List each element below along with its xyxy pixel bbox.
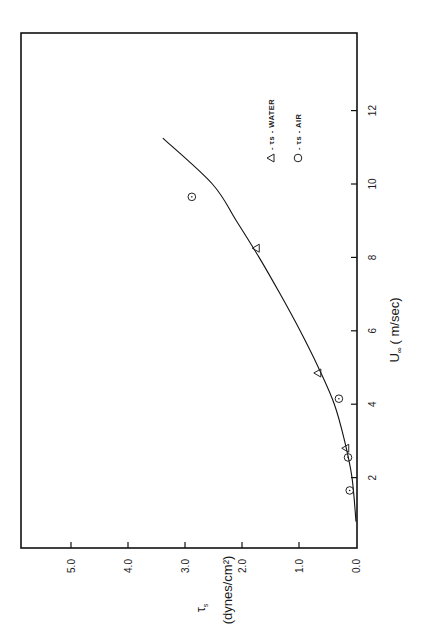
data-markers xyxy=(188,193,353,494)
x-tick-label: 4 xyxy=(367,401,378,407)
air-data-point-center xyxy=(191,196,193,198)
air-data-point-center xyxy=(347,457,349,459)
y-tick-label: 3.0 xyxy=(180,559,191,573)
x-tick-label: 8 xyxy=(367,254,378,260)
svg-text:- τs - WATER: - τs - WATER xyxy=(267,99,276,150)
x-tick-label: 6 xyxy=(367,328,378,334)
x-axis-title: U∞( m/sec) xyxy=(387,297,404,362)
legend-item-water: - τs - WATER xyxy=(267,99,276,162)
fitted-curve xyxy=(163,138,356,522)
svg-text:- τs - AIR: - τs - AIR xyxy=(294,114,303,150)
axis-tick-labels: 246810120.01.02.03.04.05.0 xyxy=(66,105,378,573)
air-data-point-center xyxy=(349,490,351,492)
svg-text:(dynes/cm²): (dynes/cm²) xyxy=(220,556,235,625)
svg-text:τs: τs xyxy=(193,603,209,612)
triangle-marker-icon xyxy=(267,154,274,162)
y-tick-label: 5.0 xyxy=(66,559,77,573)
legend-item-air: - τs - AIR xyxy=(294,114,303,162)
air-data-point-center xyxy=(338,398,340,400)
x-tick-label: 2 xyxy=(367,474,378,480)
shear-stress-chart: 246810120.01.02.03.04.05.0 U∞( m/sec) τs… xyxy=(0,0,421,632)
y-tick-label: 1.0 xyxy=(294,559,305,573)
x-tick-label: 12 xyxy=(367,105,378,117)
legend: - τs - WATER - τs - AIR xyxy=(267,99,303,162)
axis-ticks xyxy=(71,111,357,548)
circle-marker-icon xyxy=(294,154,302,162)
y-tick-label: 4.0 xyxy=(123,559,134,573)
x-tick-label: 10 xyxy=(367,178,378,190)
y-tick-label: 2.0 xyxy=(237,559,248,573)
y-axis-title: τs (dynes/cm²) xyxy=(193,556,235,625)
plot-frame xyxy=(21,33,357,548)
svg-text:U∞( m/sec): U∞( m/sec) xyxy=(387,297,404,362)
y-tick-label: 0.0 xyxy=(351,559,362,573)
